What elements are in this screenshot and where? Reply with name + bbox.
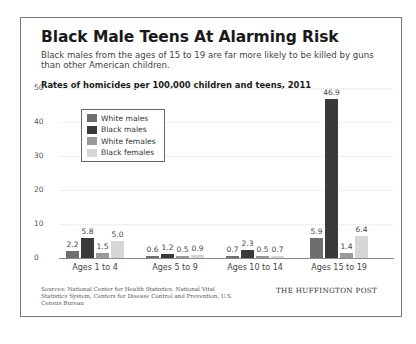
bar-value-label: 5.0: [106, 230, 130, 239]
legend-item: Black females: [87, 148, 154, 158]
plot-area: 504030201002.25.81.55.0Ages 1 to 40.61.2…: [21, 18, 403, 318]
brand-logo: THE HUFFINGTON POST: [276, 286, 377, 295]
bar-value-label: 5.8: [76, 227, 100, 236]
bar-white-males: [66, 251, 79, 258]
bar-black-females: [191, 255, 204, 258]
legend: White malesBlack malesWhite femalesBlack…: [81, 109, 165, 162]
chart-frame: Black Male Teens At Alarming Risk Black …: [20, 17, 402, 317]
bar-white-males: [226, 256, 239, 258]
x-category-label: Ages 1 to 4: [55, 263, 135, 272]
x-category-label: Ages 5 to 9: [135, 263, 215, 272]
bar-white-males: [310, 238, 323, 258]
gridline: [59, 88, 394, 89]
legend-swatch: [87, 137, 97, 145]
gridline: [59, 224, 394, 225]
y-tick-label: 50: [34, 83, 54, 92]
legend-item: White males: [87, 113, 148, 123]
y-tick-label: 40: [34, 117, 54, 126]
bar-black-males: [325, 99, 338, 258]
bar-white-females: [256, 256, 269, 258]
bar-value-label: 6.4: [350, 225, 374, 234]
x-axis-baseline: [59, 258, 394, 259]
legend-label: Black females: [101, 148, 154, 157]
y-tick-label: 0: [34, 253, 54, 262]
bar-black-females: [355, 236, 368, 258]
y-tick-label: 30: [34, 151, 54, 160]
bar-black-males: [161, 254, 174, 258]
legend-label: Black males: [101, 125, 147, 134]
y-tick-label: 20: [34, 185, 54, 194]
bar-black-females: [111, 241, 124, 258]
bar-white-females: [340, 253, 353, 258]
legend-label: White males: [101, 114, 148, 123]
legend-swatch: [87, 114, 97, 122]
x-category-label: Ages 15 to 19: [299, 263, 379, 272]
bar-black-females: [271, 256, 284, 258]
bar-value-label: 0.9: [186, 244, 210, 253]
gridline: [59, 190, 394, 191]
sources-note: Sources: National Center for Health Stat…: [41, 286, 241, 307]
bar-value-label: 46.9: [320, 88, 344, 97]
legend-item: White females: [87, 136, 156, 146]
bar-white-females: [176, 256, 189, 258]
legend-label: White females: [101, 137, 156, 146]
x-category-label: Ages 10 to 14: [215, 263, 295, 272]
bar-white-females: [96, 253, 109, 258]
legend-item: Black males: [87, 125, 147, 135]
bar-white-males: [146, 256, 159, 258]
y-tick-label: 10: [34, 219, 54, 228]
legend-swatch: [87, 126, 97, 134]
bar-value-label: 0.7: [266, 245, 290, 254]
legend-swatch: [87, 149, 97, 157]
